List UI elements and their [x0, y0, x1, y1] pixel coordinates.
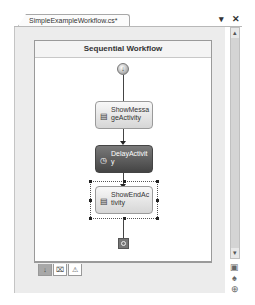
sequential-workflow-designer[interactable]: Sequential Workflow ↓ ▤ ShowMessageActiv… [34, 40, 212, 262]
activity-label: ShowMessageActivity [111, 106, 149, 121]
designer-view-tabs: ↓ ⌧ ⚠ [34, 262, 212, 279]
tab-fault-handler-view[interactable]: ⚠ [68, 264, 82, 276]
window-position-icon[interactable]: ▾ [219, 13, 224, 25]
workflow-end-icon [118, 238, 129, 249]
activity-label: DelayActivity [111, 150, 148, 165]
scroll-up-button[interactable]: ▴ [231, 28, 239, 38]
document-tab[interactable]: SimpleExampleWorkflow.cs* [18, 14, 130, 26]
designer-side-tools: ▣ ♠ ⊕ [229, 262, 241, 295]
connector-line [123, 75, 124, 101]
vertical-scrollbar[interactable]: ▴ ▾ [230, 27, 240, 259]
resize-handle[interactable] [156, 217, 159, 220]
resize-handle[interactable] [123, 180, 126, 183]
resize-handle[interactable] [89, 217, 92, 220]
pan-icon[interactable]: ♠ [229, 273, 240, 283]
activity-show-message[interactable]: ▤ ShowMessageActivity [95, 101, 153, 129]
activity-show-end[interactable]: ▤ ShowEndActivity [95, 186, 153, 214]
activity-label: ShowEndActivity [111, 191, 149, 206]
tab-workflow-view[interactable]: ↓ [38, 264, 52, 276]
scroll-down-button[interactable]: ▾ [231, 248, 239, 258]
workflow-start-icon: ↓ [117, 63, 129, 75]
connector-line [123, 219, 124, 238]
delay-icon: ◷ [99, 156, 108, 165]
tab-cancel-handler-view[interactable]: ⌧ [53, 264, 67, 276]
navigate-icon[interactable]: ⊕ [229, 284, 240, 294]
activity-delay[interactable]: ◷ DelayActivity [95, 145, 153, 173]
document-tab-strip: SimpleExampleWorkflow.cs* ▾ ✕ [14, 12, 242, 27]
resize-handle[interactable] [156, 180, 159, 183]
code-icon: ▤ [99, 112, 108, 121]
code-icon: ▤ [99, 197, 108, 206]
resize-handle[interactable] [156, 199, 159, 202]
designer-title: Sequential Workflow [35, 41, 211, 58]
resize-handle[interactable] [89, 180, 92, 183]
resize-handle[interactable] [89, 199, 92, 202]
close-icon[interactable]: ✕ [232, 13, 240, 25]
zoom-icon[interactable]: ▣ [229, 262, 240, 272]
